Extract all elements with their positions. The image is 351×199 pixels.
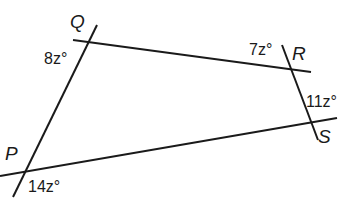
vertex-label-s: S	[318, 126, 331, 147]
angle-S-label: 11z°	[306, 93, 337, 110]
angle-Q-label: 8z°	[44, 50, 67, 67]
angle-R-label: 7z°	[249, 41, 272, 58]
line-QR	[73, 40, 311, 72]
angle-labels: 8z°7z°11z°14z°	[28, 41, 337, 195]
angle-P-label: 14z°	[28, 178, 60, 195]
vertex-label-r: R	[292, 43, 306, 64]
vertex-label-q: Q	[70, 11, 85, 32]
diagram-svg: QRSP 8z°7z°11z°14z°	[0, 0, 351, 199]
geometry-diagram: QRSP 8z°7z°11z°14z°	[0, 0, 351, 199]
vertex-label-p: P	[5, 143, 18, 164]
vertex-labels: QRSP	[5, 11, 331, 164]
line-PS	[0, 118, 337, 176]
